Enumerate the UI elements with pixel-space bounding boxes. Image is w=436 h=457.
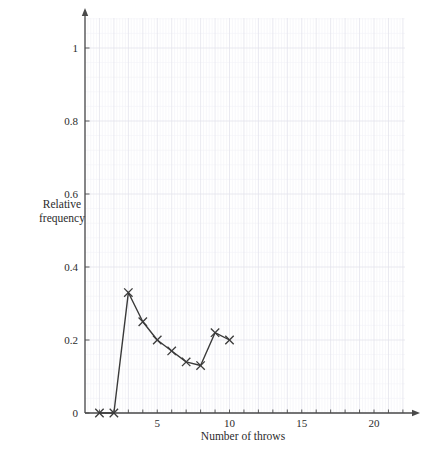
relative-frequency-chart: 510152000.20.40.60.81 Relative frequency… (0, 0, 436, 457)
y-tick-label: 1 (73, 42, 79, 54)
y-tick-label: 0.4 (64, 261, 78, 273)
chart-canvas: 510152000.20.40.60.81 Relative frequency… (0, 0, 436, 457)
axis-lines (82, 8, 420, 416)
x-tick-label: 5 (155, 417, 161, 429)
axis-tick-labels: 510152000.20.40.60.81 (64, 42, 380, 429)
x-axis-arrowhead (412, 410, 420, 416)
y-tick-label: 0 (73, 407, 79, 419)
x-tick-label: 20 (369, 417, 381, 429)
y-tick-label: 0.2 (64, 334, 78, 346)
x-tick-label: 15 (296, 417, 308, 429)
y-tick-label: 0.8 (64, 115, 78, 127)
y-axis-title-line2: frequency (39, 212, 85, 225)
x-tick-label: 10 (224, 417, 236, 429)
y-axis-title-line1: Relative (43, 198, 81, 210)
grid-minor (85, 18, 405, 413)
y-axis-arrowhead (82, 8, 88, 16)
x-axis-title: Number of throws (201, 430, 286, 442)
